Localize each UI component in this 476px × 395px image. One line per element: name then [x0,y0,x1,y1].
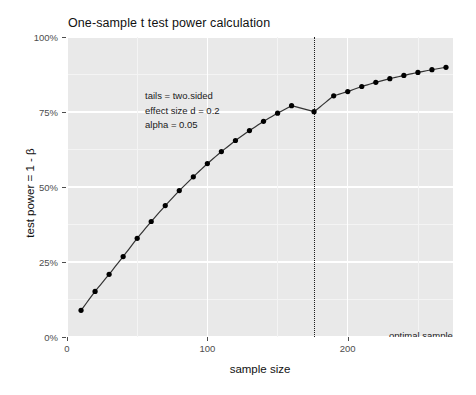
y-tick-label: 25% [39,257,58,268]
plot-panel: tails = two.sided effect size d = 0.2 al… [67,37,453,337]
data-point [275,111,280,116]
x-tick-label: 100 [199,343,215,354]
annotation-alpha: alpha = 0.05 [145,118,220,133]
power-curve-series [67,37,453,337]
data-point [107,272,112,277]
data-point [205,161,210,166]
data-point [261,119,266,124]
x-axis-title: sample size [67,363,453,375]
data-point [415,70,420,75]
y-tick-label: 0% [44,332,58,343]
y-tick-mark [62,337,66,338]
data-point [429,67,434,72]
data-point [387,76,392,81]
y-tick-label: 75% [39,107,58,118]
y-axis-title: test power = 1 - β [24,103,36,283]
data-point [149,219,154,224]
chart-title: One-sample t test power calculation [68,16,270,30]
data-point [191,174,196,179]
optimal-caption: optimal sample size [389,329,453,337]
parameters-annotation: tails = two.sided effect size d = 0.2 al… [145,89,220,133]
x-tick-label: 0 [64,343,69,354]
data-point [311,109,316,114]
data-point [233,138,238,143]
data-point [92,289,97,294]
annotation-effect-size: effect size d = 0.2 [145,104,220,119]
data-point [401,73,406,78]
data-point [135,236,140,241]
y-tick-mark [62,187,66,188]
x-tick-label: 200 [340,343,356,354]
y-tick-label: 100% [34,32,58,43]
data-point [163,203,168,208]
annotation-tails: tails = two.sided [145,89,220,104]
data-point [345,89,350,94]
data-point [289,103,294,108]
y-tick-mark [62,37,66,38]
y-tick-mark [62,262,66,263]
data-point [443,65,448,70]
data-point [331,93,336,98]
x-tick-mark [348,337,349,341]
data-point [247,128,252,133]
data-point [177,188,182,193]
data-point [359,84,364,89]
data-point [373,80,378,85]
data-point [121,254,126,259]
x-tick-mark [207,337,208,341]
optimal-sample-size-annotation: optimal sample size n = 176 [389,329,453,337]
x-tick-mark [67,337,68,341]
y-tick-label: 50% [39,182,58,193]
chart-container: One-sample t test power calculation tail… [0,0,476,395]
data-point [219,149,224,154]
data-point [78,308,83,313]
y-tick-mark [62,112,66,113]
